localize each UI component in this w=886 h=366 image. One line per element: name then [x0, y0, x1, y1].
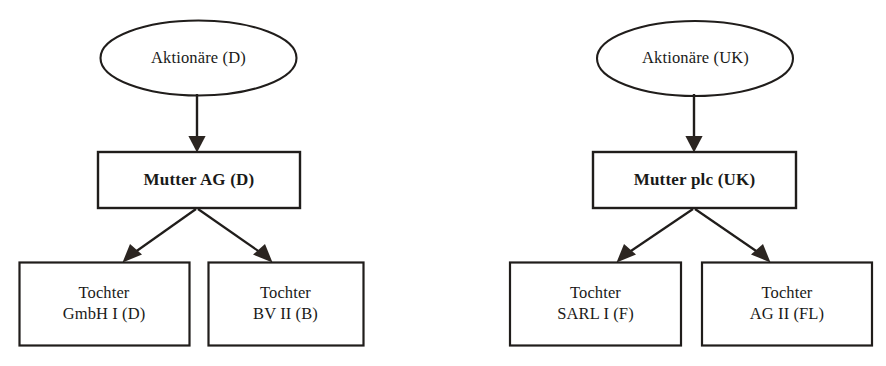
arrowhead-parent-to-child-1-uk	[617, 244, 637, 263]
shareholders-ellipse-uk[interactable]	[597, 21, 793, 96]
child-box-2-de[interactable]	[209, 263, 364, 346]
parent-box-de[interactable]	[98, 152, 300, 208]
connector-parent-to-child-2-uk	[695, 209, 762, 255]
parent-box-uk[interactable]	[593, 152, 796, 208]
connector-parent-to-child-1-de	[131, 209, 196, 255]
connector-parent-to-child-2-de	[198, 209, 264, 255]
connector-parent-to-child-1-uk	[625, 209, 693, 255]
arrowhead-parent-to-child-2-de	[253, 244, 273, 263]
org-chart-diagram: Aktionäre (D) Mutter AG (D) Tochter GmbH…	[0, 0, 886, 366]
child-box-1-uk[interactable]	[510, 263, 681, 346]
child-box-1-de[interactable]	[20, 263, 190, 346]
arrowhead-shareholders-to-parent-de	[188, 136, 205, 153]
arrowhead-parent-to-child-1-de	[123, 244, 143, 263]
arrowhead-parent-to-child-2-uk	[751, 244, 771, 263]
child-box-2-uk[interactable]	[702, 263, 872, 346]
shareholders-ellipse-de[interactable]	[101, 21, 297, 96]
diagram-canvas	[0, 0, 886, 366]
arrowhead-shareholders-to-parent-uk	[685, 136, 702, 153]
